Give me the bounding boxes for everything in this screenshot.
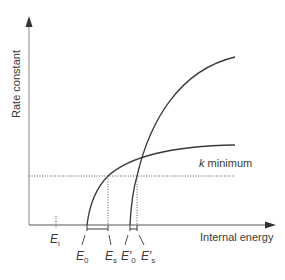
esp-leader: [139, 235, 144, 245]
esp-label: E′s: [141, 249, 155, 265]
minimum-text: minimum: [205, 157, 253, 169]
y-axis-arrow-icon: [26, 16, 33, 27]
es-leader: [109, 235, 111, 245]
y-axis: [26, 16, 33, 225]
e0p-leader: [125, 235, 128, 245]
x-axis-arrow-icon: [265, 222, 276, 229]
rate-curve-2: [130, 57, 235, 225]
es-sub: s: [113, 256, 117, 265]
diagram-canvas: Rate constant Internal energy k minimum …: [0, 0, 285, 280]
esp-sub: s: [151, 256, 155, 265]
y-axis-label: Rate constant: [10, 50, 22, 118]
e0p-label: E′0: [121, 249, 136, 265]
k-minimum-label: k minimum: [199, 157, 252, 169]
e0-leader: [82, 235, 85, 245]
e0-sub: 0: [84, 256, 89, 265]
ei-sub: i: [58, 239, 60, 248]
e0-label: E0: [76, 249, 89, 265]
ei-label: Ei: [50, 232, 60, 248]
es-label: Es: [105, 249, 117, 265]
e0p-sub: 0: [131, 256, 136, 265]
x-axis-label: Internal energy: [200, 231, 274, 243]
x-axis: [29, 222, 276, 229]
